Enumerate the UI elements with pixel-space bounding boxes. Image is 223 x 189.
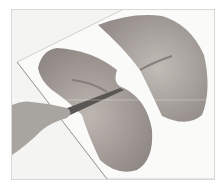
photo-illustration bbox=[12, 10, 214, 179]
photo bbox=[11, 9, 215, 180]
hand bbox=[12, 101, 71, 155]
